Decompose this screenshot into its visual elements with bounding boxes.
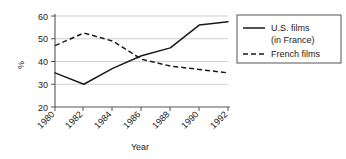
x-tick-label-1980: 1980 xyxy=(35,109,56,130)
x-axis-title: Year xyxy=(131,142,149,152)
chart-canvas: 60 50 40 30 20 % 1980 1982 1984 1986 198… xyxy=(0,0,346,159)
legend-label-french-films: French films xyxy=(271,49,321,59)
x-tick-label-1992: 1992 xyxy=(208,109,229,130)
legend: U.S. films (in France) French films xyxy=(237,15,341,63)
y-tick-label-50: 50 xyxy=(38,34,48,44)
legend-label-us-films-line2: (in France) xyxy=(271,35,315,45)
series-line-us-films xyxy=(55,22,228,85)
y-tick-label-60: 60 xyxy=(38,12,48,22)
gridlines xyxy=(55,16,228,84)
data-series-group xyxy=(55,22,228,85)
x-tick-label-1982: 1982 xyxy=(63,109,84,130)
x-tick-label-1986: 1986 xyxy=(121,109,142,130)
x-tick-label-1990: 1990 xyxy=(179,109,200,130)
y-axis-title: % xyxy=(16,61,26,69)
y-tick-label-30: 30 xyxy=(38,80,48,90)
y-axis: 60 50 40 30 20 % xyxy=(16,12,55,113)
x-tick-label-1984: 1984 xyxy=(92,109,113,130)
x-axis: 1980 1982 1984 1986 1988 1990 1992 Year xyxy=(35,107,230,152)
x-tick-label-1988: 1988 xyxy=(150,109,171,130)
line-chart-figure: 60 50 40 30 20 % 1980 1982 1984 1986 198… xyxy=(0,0,346,159)
legend-label-us-films-line1: U.S. films xyxy=(271,23,310,33)
y-tick-label-40: 40 xyxy=(38,57,48,67)
